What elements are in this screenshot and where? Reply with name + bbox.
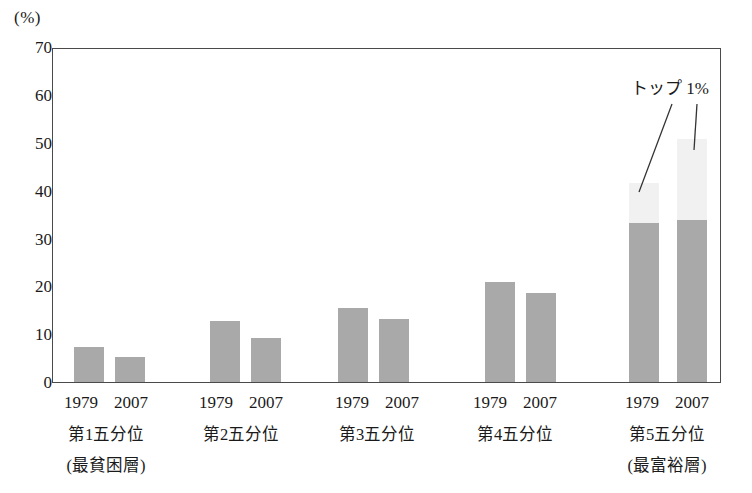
x-year-row-1: 19792007 bbox=[36, 392, 176, 415]
x-quintile-label-3: 第3五分位 bbox=[307, 424, 447, 446]
y-tick-label-0: 0 bbox=[6, 373, 52, 393]
bar-segment-lower bbox=[251, 338, 281, 382]
x-group-label-5: 19792007 第5五分位 (最富裕層) bbox=[597, 392, 737, 477]
bar-segment-lower bbox=[677, 220, 707, 382]
bar-segment-lower bbox=[74, 347, 104, 382]
y-tick-label-30: 30 bbox=[6, 230, 52, 250]
top-one-percent-annotation: トップ 1% bbox=[631, 74, 709, 99]
x-quintile-label-4: 第4五分位 bbox=[445, 424, 585, 446]
bar-segment-top-one-percent bbox=[629, 183, 659, 223]
x-year-row-3: 19792007 bbox=[307, 392, 447, 415]
y-tick-label-10: 10 bbox=[6, 325, 52, 345]
x-group-label-3: 19792007 第3五分位 bbox=[307, 392, 447, 455]
x-year-1979-g1: 1979 bbox=[56, 392, 106, 415]
bar-第4五分位-2007 bbox=[526, 293, 556, 382]
y-tick-label-60: 60 bbox=[6, 86, 52, 106]
x-year-1979-g5: 1979 bbox=[617, 392, 667, 415]
y-tick-label-20: 20 bbox=[6, 277, 52, 297]
bar-第3五分位-1979 bbox=[338, 308, 368, 382]
x-sublabel-1: (最貧困層) bbox=[36, 455, 176, 477]
bar-segment-lower bbox=[338, 308, 368, 382]
bar-segment-lower bbox=[379, 319, 409, 382]
x-group-label-2: 19792007 第2五分位 bbox=[171, 392, 311, 455]
x-year-row-2: 19792007 bbox=[171, 392, 311, 415]
x-year-row-4: 19792007 bbox=[445, 392, 585, 415]
y-tick-label-40: 40 bbox=[6, 182, 52, 202]
bar-第4五分位-1979 bbox=[485, 282, 515, 382]
bar-segment-lower bbox=[485, 282, 515, 382]
x-year-1979-g4: 1979 bbox=[465, 392, 515, 415]
x-year-2007-g2: 2007 bbox=[241, 392, 291, 415]
bar-第2五分位-1979 bbox=[210, 321, 240, 382]
bar-第5五分位-2007 bbox=[677, 139, 707, 382]
y-tick-label-70: 70 bbox=[6, 38, 52, 58]
bar-segment-lower bbox=[526, 293, 556, 382]
bars-layer bbox=[53, 49, 720, 382]
plot-area bbox=[52, 48, 721, 383]
x-quintile-label-1: 第1五分位 bbox=[36, 424, 176, 446]
x-quintile-label-2: 第2五分位 bbox=[171, 424, 311, 446]
x-year-1979-g2: 1979 bbox=[191, 392, 241, 415]
x-quintile-label-5: 第5五分位 bbox=[597, 424, 737, 446]
bar-第5五分位-1979 bbox=[629, 183, 659, 382]
x-sublabel-5: (最富裕層) bbox=[597, 455, 737, 477]
x-year-2007-g3: 2007 bbox=[377, 392, 427, 415]
bar-segment-top-one-percent bbox=[677, 139, 707, 220]
x-year-2007-g5: 2007 bbox=[667, 392, 717, 415]
bar-segment-lower bbox=[210, 321, 240, 382]
bar-chart-figure: (%) 0 10 20 30 40 50 60 70 トップ 1% 197920… bbox=[0, 0, 752, 493]
bar-第1五分位-1979 bbox=[74, 347, 104, 382]
x-group-label-4: 19792007 第4五分位 bbox=[445, 392, 585, 455]
bar-第2五分位-2007 bbox=[251, 338, 281, 382]
x-year-2007-g4: 2007 bbox=[515, 392, 565, 415]
x-year-row-5: 19792007 bbox=[597, 392, 737, 415]
bar-segment-lower bbox=[115, 357, 145, 382]
bar-第1五分位-2007 bbox=[115, 357, 145, 382]
bar-segment-lower bbox=[629, 223, 659, 382]
y-tick-label-50: 50 bbox=[6, 134, 52, 154]
x-group-label-1: 19792007 第1五分位 (最貧困層) bbox=[36, 392, 176, 477]
x-year-1979-g3: 1979 bbox=[327, 392, 377, 415]
x-year-2007-g1: 2007 bbox=[106, 392, 156, 415]
bar-第3五分位-2007 bbox=[379, 319, 409, 382]
